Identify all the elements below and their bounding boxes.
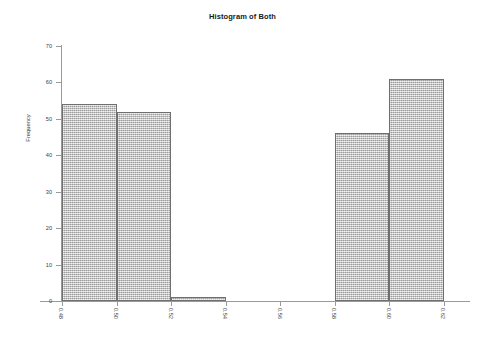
y-tick — [56, 82, 61, 83]
y-tick — [56, 265, 61, 266]
y-tick-label: 0 — [22, 298, 52, 304]
y-tick-label: 30 — [22, 189, 52, 195]
x-tick-label: 0.60 — [386, 308, 392, 319]
y-tick-label: 60 — [22, 79, 52, 85]
histogram-bar — [335, 133, 390, 301]
x-axis-line — [40, 301, 470, 302]
histogram-figure: Histogram of Both Frequency 010203040506… — [0, 0, 485, 341]
y-tick-label: 40 — [22, 152, 52, 158]
chart-title: Histogram of Both — [0, 12, 485, 21]
y-tick-label: 70 — [22, 43, 52, 49]
x-tick-label: 0.62 — [440, 308, 446, 319]
x-tick — [171, 301, 172, 306]
x-tick — [117, 301, 118, 306]
y-tick — [56, 192, 61, 193]
histogram-bar — [389, 79, 444, 301]
x-tick-label: 0.48 — [58, 308, 64, 319]
x-tick-label: 0.54 — [222, 308, 228, 319]
x-tick-label: 0.52 — [168, 308, 174, 319]
y-tick-label: 10 — [22, 262, 52, 268]
x-tick-label: 0.50 — [113, 308, 119, 319]
y-tick — [56, 228, 61, 229]
histogram-bar — [62, 104, 117, 301]
y-tick — [56, 46, 61, 47]
x-tick — [444, 301, 445, 306]
histogram-bar — [117, 112, 172, 301]
y-axis-label: Frequency — [25, 48, 31, 208]
x-tick — [280, 301, 281, 306]
y-tick — [56, 155, 61, 156]
x-tick — [389, 301, 390, 306]
histogram-bar — [171, 297, 226, 301]
x-tick — [335, 301, 336, 306]
y-tick-label: 50 — [22, 116, 52, 122]
y-tick — [56, 301, 61, 302]
x-tick — [62, 301, 63, 306]
y-tick — [56, 119, 61, 120]
x-tick-label: 0.58 — [331, 308, 337, 319]
y-tick-label: 20 — [22, 225, 52, 231]
x-tick-label: 0.56 — [277, 308, 283, 319]
plot-area — [62, 46, 444, 301]
x-tick — [226, 301, 227, 306]
